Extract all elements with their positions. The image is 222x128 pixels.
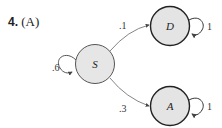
self-loop-d [189,18,203,35]
edge-s-to-a [110,78,149,106]
node-a-label: A [166,100,174,112]
markov-diagram: S D A .6 .1 .3 1 1 [0,0,222,128]
node-d-label: D [165,20,174,32]
edge-label-a-a: 1 [207,101,212,112]
self-loop-a [189,98,203,115]
node-d: D [151,7,190,46]
node-a: A [151,87,190,126]
edge-label-s-d: .1 [119,20,127,31]
self-loop-s [58,55,76,73]
edge-s-to-d [110,25,149,51]
edge-label-d-d: 1 [207,21,212,32]
node-s-label: S [92,58,98,70]
edge-label-s-s: .6 [52,62,60,73]
edge-label-s-a: .3 [119,103,127,114]
node-s: S [76,45,115,84]
